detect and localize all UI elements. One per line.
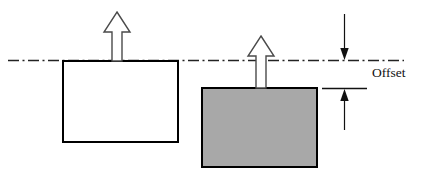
offset-dimension-lower-arrowhead xyxy=(340,89,348,101)
white-block-rectangle xyxy=(63,61,178,142)
offset-dimension-upper-arrowhead xyxy=(340,48,348,60)
up-arrow-icon-left xyxy=(104,12,130,61)
up-arrow-icon-right xyxy=(248,36,274,88)
offset-label: Offset xyxy=(372,65,406,80)
gray-block-rectangle xyxy=(202,88,317,167)
offset-diagram: Offset xyxy=(0,0,424,180)
diagram-canvas: Offset xyxy=(0,0,424,180)
